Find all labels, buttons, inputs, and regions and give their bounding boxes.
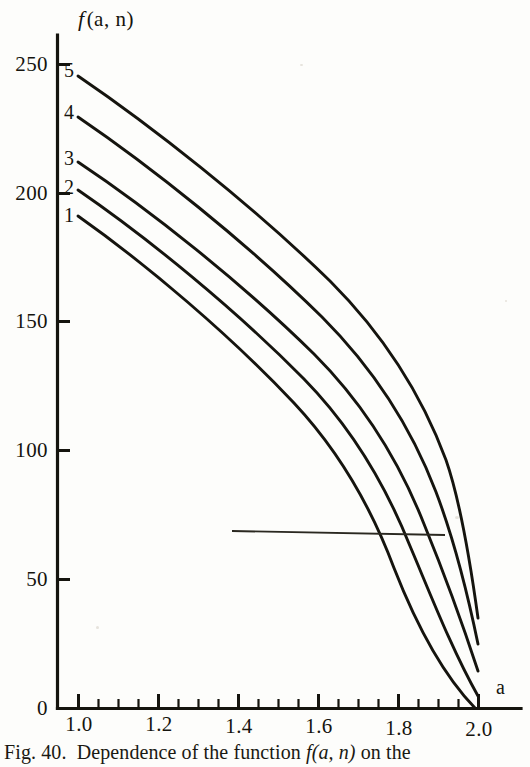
scan-speck <box>455 516 459 519</box>
y-tick-label-0: 0 <box>0 698 48 719</box>
x-tick-label-1-0: 1.0 <box>48 714 110 735</box>
x-tick-label-2-0: 2.0 <box>448 719 510 740</box>
y-tick-label-150: 150 <box>0 311 48 332</box>
curve-group <box>78 76 478 708</box>
curve-label-1: 1 <box>64 205 74 225</box>
curve-label-5: 5 <box>64 60 74 80</box>
scan-speck <box>300 64 303 66</box>
curve-label-3: 3 <box>64 148 74 168</box>
figure-caption: Fig. 40. Dependence of the function f(a,… <box>4 741 530 763</box>
scan-speck <box>96 626 99 629</box>
y-tick-label-200: 200 <box>0 183 48 204</box>
y-axis-title: f(a, n) <box>78 8 134 30</box>
caption-figure-number: Fig. 40. <box>4 741 66 763</box>
caption-tail: on the <box>361 741 411 763</box>
curve-1 <box>78 216 475 708</box>
caption-body: Dependence of the function <box>77 741 301 763</box>
caption-function: f(a, n) <box>306 741 356 763</box>
x-axis-title: a <box>496 677 505 697</box>
reference-level-line <box>232 531 445 535</box>
curve-3 <box>78 162 478 671</box>
y-tick-label-100: 100 <box>0 440 48 461</box>
x-axis-minor-ticks <box>99 699 459 708</box>
x-tick-label-1-6: 1.6 <box>288 716 350 737</box>
y-axis-title-rest: (a, n) <box>87 7 134 31</box>
curve-5 <box>78 76 478 618</box>
x-tick-label-1-4: 1.4 <box>208 716 270 737</box>
y-axis-title-italic-f: f <box>78 6 87 31</box>
x-tick-label-1-2: 1.2 <box>128 714 190 735</box>
figure-40: 0 50 100 150 200 250 1.0 1.2 1.4 1.6 1.8… <box>0 0 530 767</box>
curve-label-2: 2 <box>64 177 74 197</box>
y-tick-label-250: 250 <box>0 54 48 75</box>
y-tick-label-50: 50 <box>0 569 48 590</box>
scan-speck <box>505 300 507 302</box>
x-tick-label-1-8: 1.8 <box>368 718 430 739</box>
curve-label-4: 4 <box>64 102 74 122</box>
plot-area <box>0 0 530 767</box>
